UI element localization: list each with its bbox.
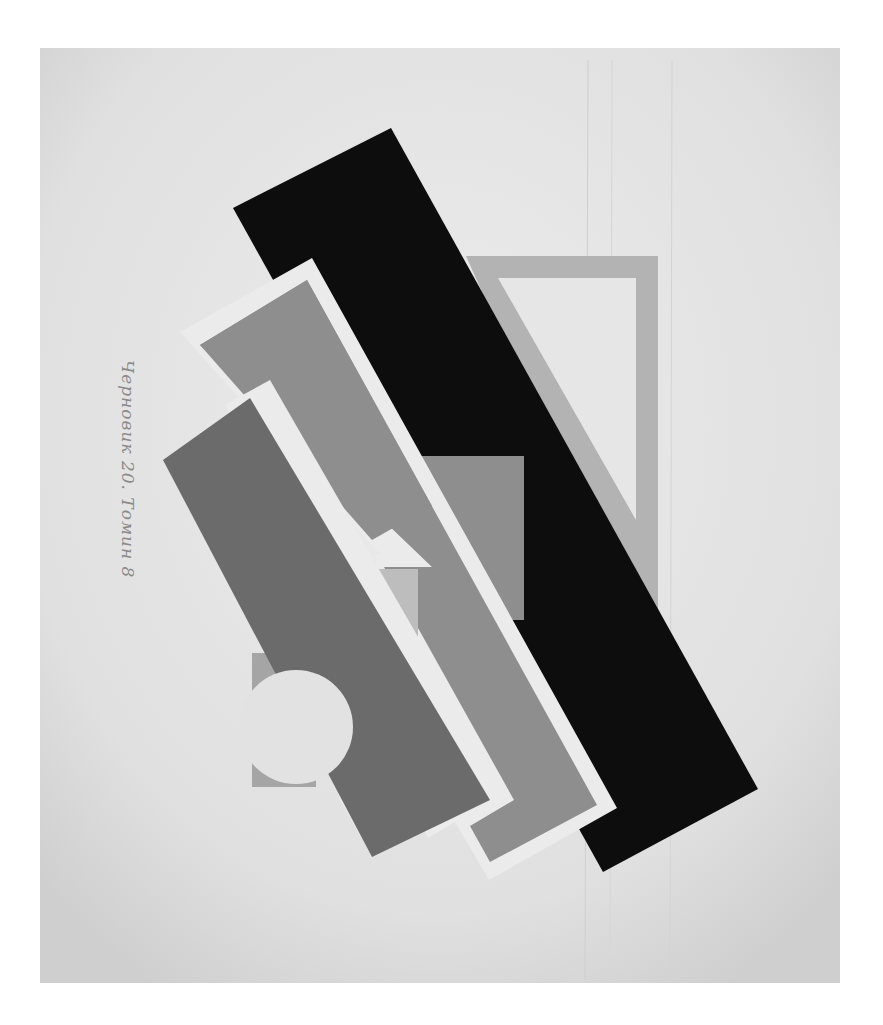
- light-circle: [239, 670, 353, 784]
- inscription: Черновик 20. Томин 8: [118, 360, 138, 578]
